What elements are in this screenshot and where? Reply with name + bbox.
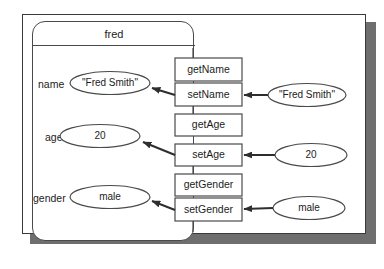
attribute-value-name: "Fred Smith"	[70, 77, 150, 88]
method-label-setGender: setGender	[173, 203, 244, 215]
argument-value-name: "Fred Smith"	[267, 89, 347, 100]
arrow-setGender-to-gender	[152, 201, 175, 210]
method-label-getName: getName	[175, 63, 242, 75]
method-label-getGender: getGender	[173, 178, 244, 190]
method-label-getAge: getAge	[175, 118, 242, 130]
diagram-overlay	[0, 0, 384, 269]
attribute-value-gender: male	[70, 191, 150, 202]
object-diagram-figure: fred name age gender	[0, 0, 384, 269]
arrow-setName-to-name	[152, 88, 175, 95]
arrow-setAge-to-age	[143, 142, 175, 155]
argument-value-age: 20	[271, 149, 351, 160]
attribute-value-age: 20	[60, 130, 140, 141]
argument-value-gender: male	[269, 202, 349, 213]
method-label-setAge: setAge	[175, 148, 242, 160]
method-label-setName: setName	[175, 88, 242, 100]
